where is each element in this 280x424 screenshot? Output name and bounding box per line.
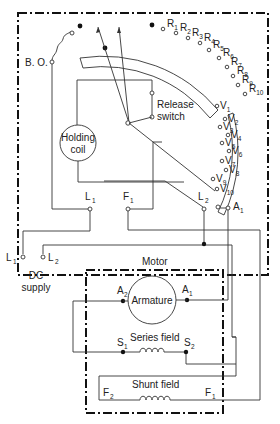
svg-text:Armature: Armature bbox=[131, 295, 173, 306]
svg-text:2: 2 bbox=[55, 258, 59, 265]
svg-text:1: 1 bbox=[240, 207, 244, 214]
svg-text:F: F bbox=[123, 191, 129, 202]
resistor-tap-9-contact[interactable] bbox=[236, 83, 240, 87]
voltage-tap-5-contact[interactable] bbox=[220, 141, 224, 145]
voltage-tap-3-contact[interactable] bbox=[218, 125, 222, 129]
contact-dot bbox=[78, 24, 83, 29]
resistor-taps: R1R2R3R4R5R6R7R8R9R10 bbox=[161, 18, 264, 96]
svg-text:S: S bbox=[117, 337, 124, 348]
voltage-tap-9-contact[interactable] bbox=[211, 177, 215, 181]
resistor-tap-1-label: R1 bbox=[167, 18, 178, 31]
voltage-tap-1-contact[interactable] bbox=[215, 104, 219, 108]
svg-text:A: A bbox=[117, 285, 124, 296]
terminal-a1[interactable] bbox=[226, 206, 230, 210]
voltage-tap-1-label: V1 bbox=[220, 100, 231, 113]
voltage-tap-4-label: V4 bbox=[231, 129, 242, 142]
svg-text:L: L bbox=[198, 191, 204, 202]
svg-text:coil: coil bbox=[70, 144, 85, 155]
svg-text:S: S bbox=[184, 337, 191, 348]
series-field-label: Series field bbox=[130, 332, 179, 343]
terminal-l2[interactable] bbox=[202, 207, 206, 211]
series-field-coil bbox=[125, 348, 185, 352]
resistor-tap-10-label: R10 bbox=[249, 83, 264, 96]
svg-text:A: A bbox=[182, 284, 189, 295]
resistor-tap-2-label: R2 bbox=[180, 22, 191, 35]
release-switch-label: Release bbox=[157, 99, 194, 110]
voltage-tap-10-contact[interactable] bbox=[215, 187, 219, 191]
resistor-tap-4-contact[interactable] bbox=[198, 41, 202, 45]
supply-l2[interactable] bbox=[41, 255, 45, 259]
resistor-tap-2-contact[interactable] bbox=[174, 31, 178, 35]
svg-text:2: 2 bbox=[110, 393, 114, 400]
svg-text:F: F bbox=[205, 387, 211, 398]
svg-text:Holding: Holding bbox=[61, 132, 95, 143]
shunt-field-label: Shunt field bbox=[132, 379, 179, 390]
svg-text:L: L bbox=[48, 252, 54, 263]
svg-text:L: L bbox=[85, 191, 91, 202]
dc-starter-diagram: R1R2R3R4R5R6R7R8R9R10 V1V2V3V4V5V6V7V8V9… bbox=[0, 0, 280, 424]
svg-text:2: 2 bbox=[205, 197, 209, 204]
resistor-tap-1-contact[interactable] bbox=[161, 27, 165, 31]
voltage-tap-10-label: V10 bbox=[220, 183, 234, 196]
voltage-taps: V1V2V3V4V5V6V7V8V9V10 bbox=[211, 100, 242, 196]
svg-text:A: A bbox=[233, 201, 240, 212]
svg-text:1: 1 bbox=[13, 258, 17, 265]
svg-text:1: 1 bbox=[130, 197, 134, 204]
voltage-tap-6-contact[interactable] bbox=[227, 149, 231, 153]
svg-text:supply: supply bbox=[22, 282, 51, 293]
voltage-tap-8-label: V8 bbox=[229, 164, 240, 177]
motor-title: Motor bbox=[142, 256, 168, 267]
resistor-tap-5-contact[interactable] bbox=[207, 48, 211, 52]
svg-text:F: F bbox=[103, 387, 109, 398]
resistor-tap-10-contact[interactable] bbox=[243, 92, 247, 96]
svg-text:L: L bbox=[6, 252, 12, 263]
resistor-tap-7-contact[interactable] bbox=[225, 65, 229, 69]
terminal-l1[interactable] bbox=[88, 207, 92, 211]
resistance-arc bbox=[80, 56, 218, 118]
voltage-tap-7-contact[interactable] bbox=[220, 159, 224, 163]
svg-text:1: 1 bbox=[212, 393, 216, 400]
svg-text:DC: DC bbox=[29, 270, 43, 281]
supply-l1[interactable] bbox=[21, 255, 25, 259]
svg-text:2: 2 bbox=[191, 343, 195, 350]
terminal-f1[interactable] bbox=[126, 207, 130, 211]
bo-coil bbox=[52, 32, 70, 61]
voltage-tap-6-label: V6 bbox=[232, 145, 243, 158]
svg-text:switch: switch bbox=[157, 111, 185, 122]
holding-coil bbox=[60, 125, 96, 161]
bo-label: B. O. bbox=[25, 57, 48, 68]
resistor-tap-3-label: R3 bbox=[192, 27, 203, 40]
resistor-tap-8-contact[interactable] bbox=[231, 74, 235, 78]
voltage-tap-8-contact[interactable] bbox=[224, 168, 228, 172]
resistor-tap-6-contact[interactable] bbox=[217, 56, 221, 60]
svg-text:1: 1 bbox=[92, 197, 96, 204]
svg-text:2: 2 bbox=[124, 291, 128, 298]
resistor-tap-3-contact[interactable] bbox=[186, 36, 190, 40]
svg-text:1: 1 bbox=[124, 343, 128, 350]
contact-dot bbox=[150, 23, 155, 28]
svg-text:1: 1 bbox=[189, 290, 193, 297]
